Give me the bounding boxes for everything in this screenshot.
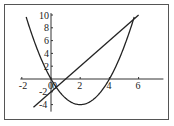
x-tick-label: 6 [136, 80, 141, 91]
x-tick-label: -2 [19, 80, 27, 91]
y-tick-label: 8 [44, 22, 49, 33]
x-tick-label: 2 [77, 80, 82, 91]
y-tick-label: 4 [44, 48, 49, 59]
y-tick-label: 10 [39, 10, 49, 21]
function-plot: -20246-4-22468100 [0, 0, 174, 126]
y-tick-label: 6 [44, 35, 49, 46]
straight-line [33, 15, 138, 107]
